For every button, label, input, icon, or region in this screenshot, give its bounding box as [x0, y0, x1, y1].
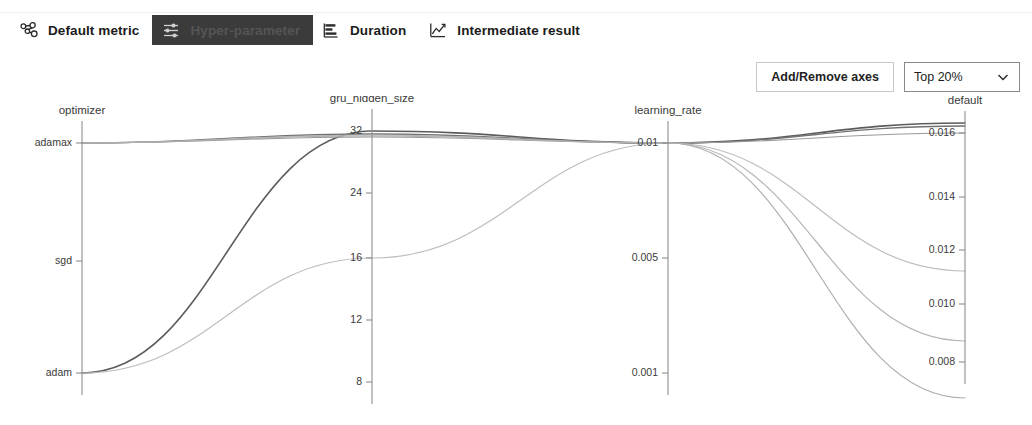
axis-learning_rate[interactable]: learning_rate0.010.0050.001	[632, 104, 702, 395]
axis-title: optimizer	[59, 104, 106, 116]
sliders-icon	[162, 22, 181, 39]
axis-tick-label: 0.008	[929, 355, 955, 367]
axis-tick-label: 0.016	[929, 126, 955, 138]
nodes-graph-icon	[20, 22, 39, 39]
axis-tick-label: 16	[350, 251, 362, 263]
axis-title: default	[948, 96, 983, 106]
axis-tick-label: 24	[350, 186, 362, 198]
axis-optimizer[interactable]: optimizeradamaxsgdadam	[35, 104, 106, 395]
tab-duration[interactable]: Duration	[313, 15, 419, 45]
line-chart-icon	[429, 22, 448, 39]
hyper-parameter-view: Default metric Hyper-parameter	[0, 0, 1032, 425]
series-line[interactable]	[82, 135, 965, 341]
tab-label: Duration	[350, 23, 406, 38]
add-remove-axes-button[interactable]: Add/Remove axes	[756, 62, 894, 92]
axis-tick-label: 32	[350, 124, 362, 136]
chevron-down-icon	[996, 70, 1010, 84]
axis-tick-label: 0.005	[632, 251, 658, 263]
axis-tick-label: 0.001	[632, 366, 658, 378]
tab-label: Hyper-parameter	[190, 23, 300, 38]
axis-tick-label: 8	[356, 375, 362, 387]
tab-default-metric[interactable]: Default metric	[10, 15, 152, 45]
view-tabs: Default metric Hyper-parameter	[0, 13, 1032, 47]
axis-tick-label: 0.010	[929, 297, 955, 309]
axis-title: gru_hidden_size	[330, 96, 414, 104]
axis-tick-label: adam	[46, 366, 73, 378]
axis-tick-label: 0.01	[638, 136, 659, 148]
axis-tick-label: adamax	[35, 136, 73, 148]
tab-intermediate-result[interactable]: Intermediate result	[419, 15, 593, 45]
chart-controls: Add/Remove axes Top 20%	[756, 62, 1020, 92]
top-percent-value: Top 20%	[914, 70, 996, 84]
axis-tick-label: 12	[350, 313, 362, 325]
bar-list-icon	[323, 22, 341, 39]
axis-tick-label: sgd	[55, 254, 72, 266]
tab-hyper-parameter[interactable]: Hyper-parameter	[152, 15, 313, 45]
series-line[interactable]	[82, 143, 965, 373]
axis-tick-label: 0.012	[929, 243, 955, 255]
series-line[interactable]	[82, 136, 965, 398]
axis-tick-label: 0.014	[929, 190, 955, 202]
series-line[interactable]	[82, 123, 965, 373]
tab-label: Intermediate result	[457, 23, 580, 38]
top-percent-select[interactable]: Top 20%	[904, 62, 1020, 92]
tab-label: Default metric	[48, 23, 139, 38]
axis-gru_hidden_size[interactable]: gru_hidden_size322416128	[330, 96, 414, 404]
axis-title: learning_rate	[634, 104, 701, 116]
parallel-coordinates-chart[interactable]: optimizeradamaxsgdadamgru_hidden_size322…	[0, 96, 1032, 425]
series-group	[82, 123, 965, 398]
